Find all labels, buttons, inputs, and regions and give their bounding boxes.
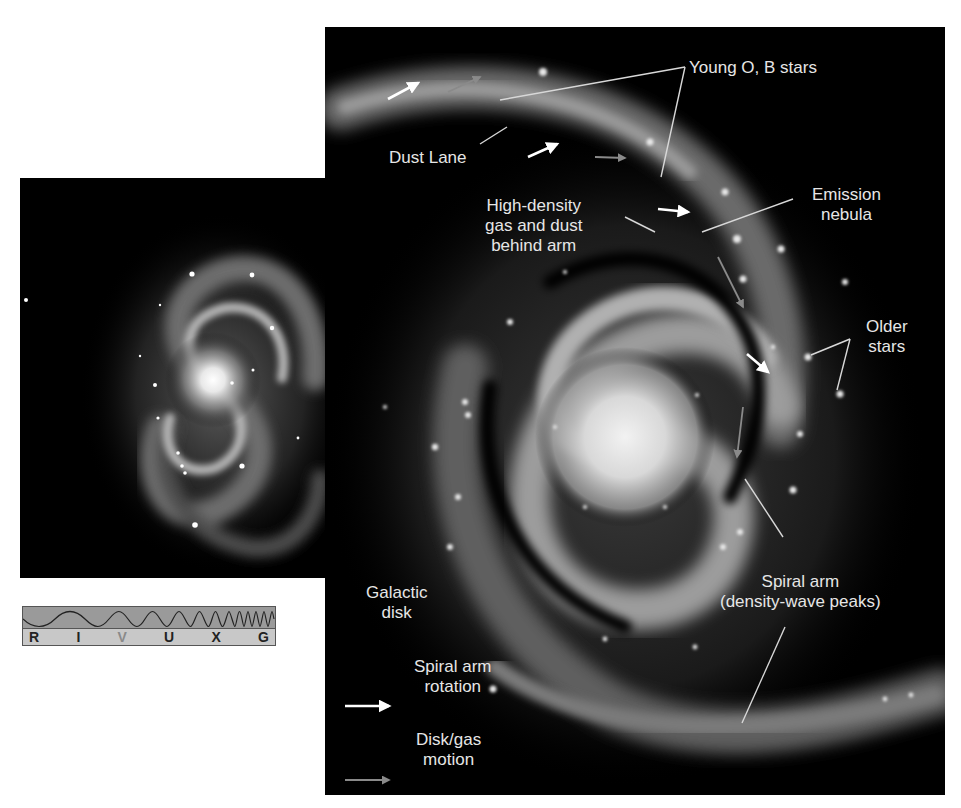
spectrum-band-labels: R I V U X G [23,629,275,645]
label-emission-nebula: Emission nebula [812,185,881,225]
band-g: G [258,629,269,645]
galaxy-photo [20,178,326,578]
band-v-highlighted: V [118,629,127,645]
label-galactic-disk: Galactic disk [366,583,427,623]
wavelength-wave-graphic [23,607,275,629]
band-i: I [76,629,80,645]
legend-disk-motion-label: Disk/gas motion [416,730,481,770]
label-high-density-gas: High-density gas and dust behind arm [485,196,582,256]
band-u: U [164,629,174,645]
label-dust-lane: Dust Lane [389,148,467,168]
spectrum-strip: R I V U X G [22,606,276,646]
band-x: X [211,629,220,645]
galaxy-photo-image [20,178,326,578]
label-spiral-arm-density-wave: Spiral arm (density-wave peaks) [720,572,881,612]
legend-rotation-label: Spiral arm rotation [414,657,491,697]
label-young-ob-stars: Young O, B stars [689,58,817,78]
band-r: R [29,629,39,645]
label-older-stars: Older stars [866,317,908,357]
